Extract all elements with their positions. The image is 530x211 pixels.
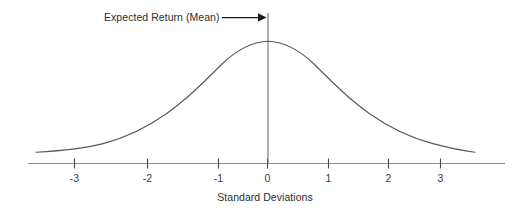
normal-distribution-curve [36,41,475,152]
annotation-arrow-head [258,13,267,22]
x-tick-label-minus-3: -3 [60,172,90,184]
x-tick-label-plus-2: 2 [374,172,404,184]
x-tick-label-minus-2: -2 [133,172,163,184]
normal-distribution-figure: Expected Return (Mean) -3 -2 -1 0 1 2 3 … [0,0,530,211]
x-tick-label-plus-3: 3 [426,172,456,184]
mean-annotation-label: Expected Return (Mean) [104,11,220,23]
mean-annotation-arrow [222,13,267,22]
x-tick-label-minus-1: -1 [204,172,234,184]
x-tick-label-plus-1: 1 [314,172,344,184]
x-tick-label-zero: 0 [253,172,283,184]
x-axis-title: Standard Deviations [0,191,530,203]
